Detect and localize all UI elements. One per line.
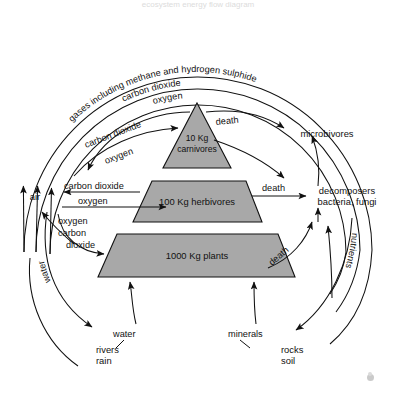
decomposers-label-line2: bacteria, fungi	[318, 196, 377, 207]
carnivores-amount: 10 Kg	[186, 133, 209, 143]
herbivore-co2-label: carbon dioxide	[64, 181, 124, 191]
decomposer-return-arrows	[312, 136, 332, 298]
herbivores-label: 100 Kg herbivores	[159, 196, 235, 207]
water-outer-arc-path	[29, 258, 78, 366]
rocks-label-line1: rocks	[281, 344, 304, 355]
death-carnivores-label: death	[215, 115, 239, 127]
herbivore-o2-label: oxygen	[78, 196, 108, 206]
page-smudge-artifact	[367, 374, 374, 381]
diagram-canvas: ecosystem energy flow diagram	[0, 0, 396, 397]
arc-oxygen-label: oxygen	[152, 91, 183, 106]
label-leaders	[116, 340, 250, 348]
decomposers-to-microbivores-arrow	[312, 136, 319, 186]
death-herbivores-label: death	[262, 183, 285, 193]
plants-label: 1000 Kg plants	[166, 250, 229, 261]
rivers-label-line1: rivers	[96, 344, 119, 355]
minerals-uptake-arrow	[254, 282, 256, 324]
nutrients-arc-path	[296, 218, 352, 330]
rivers-label-line2: rain	[96, 355, 112, 366]
water-uptake-label: water	[112, 329, 135, 339]
plants-carbon-label: carbon	[58, 228, 86, 238]
carnivores-label: carnivores	[177, 144, 217, 154]
decomposers-label-line1: decomposers	[319, 185, 376, 196]
rocks-label-line2: soil	[281, 355, 295, 366]
uptake-arrow-group	[130, 282, 256, 324]
nutrients-cycle-arc	[296, 218, 352, 330]
microbivores-label: microbivores	[300, 128, 353, 139]
rocks-leader	[240, 340, 250, 348]
gases-to-air-arrow	[23, 186, 24, 252]
minerals-uptake-label: minerals	[228, 329, 263, 339]
air-label: air	[30, 191, 40, 202]
water-uptake-arrow	[130, 282, 136, 324]
ecosystem-diagram: gases including methane and hydrogen sul…	[0, 0, 396, 397]
plants-dioxide-label: dioxide	[66, 240, 95, 250]
decomposers-upward-arrow	[328, 226, 332, 298]
plants-oxygen-label: oxygen	[58, 216, 88, 226]
